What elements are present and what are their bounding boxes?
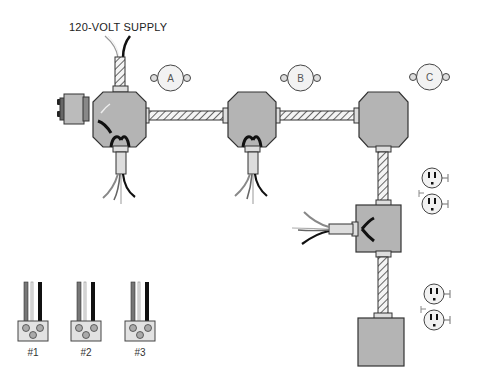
switch-connector-1: #1 [18,282,48,358]
connector [113,86,128,92]
fixture-c: C [410,64,450,90]
cable-jacket [248,152,258,174]
cable-wires-side [292,212,329,244]
fixture-b-label: B [297,73,304,84]
supply-label: 120-VOLT SUPPLY [69,21,168,33]
cable-jacket [116,152,126,174]
cable-wires-a [103,174,135,204]
switch-connector-3: #3 [125,282,155,358]
switch-device [57,94,89,124]
fixture-a: A [151,65,191,91]
conduit-lower [378,257,388,314]
fixture-b: B [281,65,321,91]
junction-box-b [228,92,276,147]
fixture-c-label: C [426,72,433,83]
conduit-c-down [378,152,388,202]
receptacle-box-2 [358,318,404,366]
connector-3-label: #3 [134,347,146,358]
connector-1-label: #1 [27,347,39,358]
fixture-a-label: A [167,73,174,84]
cable-wires-b [235,174,267,204]
conduit-a-b [148,111,226,120]
receptacle-box-1 [356,205,401,252]
cable-jacket [329,224,353,234]
connector [376,146,391,152]
duplex-receptacle-2 [421,284,450,330]
switch-connector-2: #2 [71,282,101,358]
supply-conduit [115,57,125,87]
connector [245,146,260,152]
connector [376,251,391,257]
supply-wires [105,36,130,58]
junction-box-a [93,92,146,147]
duplex-receptacle-1 [419,168,448,214]
connector-2-label: #2 [80,347,92,358]
connector [113,146,128,152]
junction-box-c [359,92,408,147]
conduit-b-c [279,111,357,120]
wiring-diagram: 120-VOLT SUPPLY [0,0,480,380]
